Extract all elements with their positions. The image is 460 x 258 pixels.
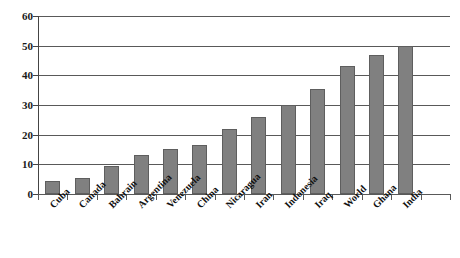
bar-nicaragua xyxy=(222,129,237,194)
y-tick-label-60: 60 xyxy=(3,11,33,22)
y-tick-label-0: 0 xyxy=(3,189,33,200)
bar-bahrain xyxy=(104,166,119,194)
plot-area xyxy=(38,16,450,194)
bar-ghana xyxy=(369,55,384,194)
gridline-30 xyxy=(38,105,450,106)
y-axis-line xyxy=(38,16,39,195)
y-tick-label-50: 50 xyxy=(3,40,33,51)
gridline-20 xyxy=(38,135,450,136)
gridline-40 xyxy=(38,75,450,76)
gridline-60 xyxy=(38,16,450,17)
bar-indonesia xyxy=(281,105,296,194)
y-axis-tick-labels: 0102030405060 xyxy=(0,0,33,258)
y-tick-label-40: 40 xyxy=(3,70,33,81)
gridline-50 xyxy=(38,46,450,47)
y-tick-label-10: 10 xyxy=(3,159,33,170)
bar-india xyxy=(398,46,413,194)
x-tick-0 xyxy=(38,194,39,200)
bar-world xyxy=(340,66,355,194)
y-tick-label-20: 20 xyxy=(3,129,33,140)
y-tick-label-30: 30 xyxy=(3,100,33,111)
bar-chart: 0102030405060 CubaCanadaBahrainArgentina… xyxy=(0,0,460,258)
gridline-10 xyxy=(38,164,450,165)
x-tick-14 xyxy=(450,194,451,200)
